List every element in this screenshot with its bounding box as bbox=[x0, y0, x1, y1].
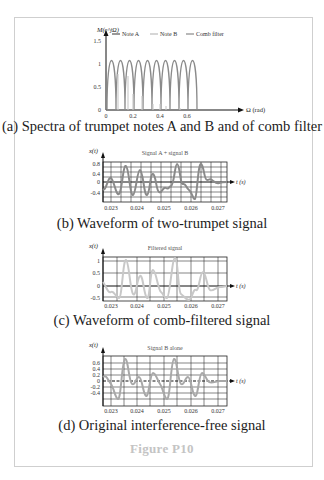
figure-label: Figure P10 bbox=[0, 441, 324, 457]
y-axis-label: x(t) bbox=[88, 147, 98, 155]
x-tick: 0.027 bbox=[211, 205, 225, 211]
x-axis-label: t (s) bbox=[236, 179, 246, 186]
x-tick: 0.027 bbox=[211, 303, 225, 309]
x-axis-label: t (s) bbox=[236, 283, 246, 290]
y-axis-label: x(t) bbox=[88, 341, 98, 349]
comb-filter-curve bbox=[107, 61, 197, 111]
x-tick: 0.023 bbox=[104, 205, 118, 211]
x-tick: 0.025 bbox=[157, 303, 171, 309]
y-tick: -0.5 bbox=[91, 295, 101, 301]
x-axis-label: Ω (rad) bbox=[246, 106, 265, 114]
y-tick: 0 bbox=[97, 283, 100, 289]
legend-comb-filter: Comb filter bbox=[196, 31, 224, 37]
x-tick: 0.024 bbox=[130, 408, 144, 414]
panel-c-filtered: Filtered signal x(t) t (s) 1 0.5 0 -0.5 … bbox=[88, 242, 246, 309]
y-tick: 0 bbox=[97, 179, 100, 185]
caption-b: (b) Waveform of two-trumpet signal bbox=[0, 215, 324, 232]
x-tick: 0.023 bbox=[104, 408, 118, 414]
x-tick: 0.023 bbox=[104, 303, 118, 309]
legend-note-b: Note B bbox=[160, 31, 177, 37]
y-tick: 0.5 bbox=[94, 84, 102, 90]
panel-a-spectra: 0 0.5 1 1.5 0 0.2 0.4 0.6 M(e^jΩ) Ω (rad… bbox=[94, 26, 266, 119]
caption-d: (d) Original interference-free signal bbox=[0, 417, 324, 434]
caption-a: (a) Spectra of trumpet notes A and B and… bbox=[0, 118, 324, 135]
y-tick: 1 bbox=[98, 61, 101, 67]
waveform-filtered bbox=[103, 258, 227, 300]
panel-title: Signal B alone bbox=[147, 345, 183, 351]
caption-c: (c) Waveform of comb-filtered signal bbox=[0, 312, 324, 329]
y-axis-label: x(t) bbox=[88, 242, 98, 250]
figure-canvas: 0 0.5 1 1.5 0 0.2 0.4 0.6 M(e^jΩ) Ω (rad… bbox=[0, 0, 324, 480]
x-tick: 0.024 bbox=[130, 303, 144, 309]
y-tick: 0 bbox=[98, 107, 101, 113]
y-tick: 1.5 bbox=[94, 38, 102, 44]
y-tick: -0.4 bbox=[91, 190, 101, 196]
x-tick: 0.027 bbox=[211, 408, 225, 414]
x-tick: 0.024 bbox=[130, 205, 144, 211]
panel-b-waveform: Signal A + signal B x(t) t (s) 0.8 0.4 0… bbox=[88, 147, 246, 211]
y-tick: -0.4 bbox=[91, 390, 101, 396]
panel-d-signal-b: Signal B alone x(t) t (s) 0.6 0.4 0.2 0 … bbox=[88, 341, 246, 414]
x-tick: 0.026 bbox=[184, 408, 198, 414]
panel-title: Signal A + signal B bbox=[142, 150, 189, 156]
x-tick: 0.026 bbox=[184, 303, 198, 309]
legend-note-a: Note A bbox=[122, 31, 140, 37]
x-tick: 0.025 bbox=[157, 408, 171, 414]
x-tick: 0.026 bbox=[184, 205, 198, 211]
panel-title: Filtered signal bbox=[148, 245, 183, 251]
x-tick: 0.025 bbox=[157, 205, 171, 211]
y-tick: 1 bbox=[97, 258, 100, 264]
x-axis-label: t (s) bbox=[236, 378, 246, 385]
y-axis-label: M(e^jΩ) bbox=[96, 26, 119, 34]
y-tick: 0.5 bbox=[93, 270, 101, 276]
y-tick: 0.4 bbox=[93, 171, 101, 177]
y-tick: 0.8 bbox=[93, 161, 101, 167]
